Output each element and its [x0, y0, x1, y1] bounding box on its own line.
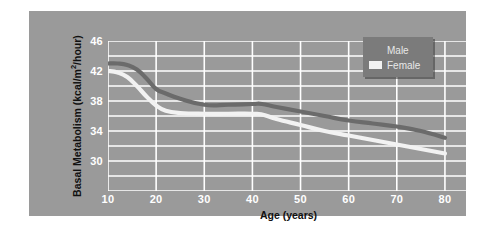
legend-item-female: Female: [369, 58, 420, 72]
y-axis-tick-label: 30: [77, 155, 103, 167]
y-axis-tick-label: 46: [77, 35, 103, 47]
x-axis-tick-label: 50: [286, 193, 316, 205]
x-axis-tick-label: 30: [189, 193, 219, 205]
x-axis-tick-label: 70: [382, 193, 412, 205]
chart-legend: Male Female: [363, 37, 433, 77]
x-axis-tick-labels: 1020304050607080: [108, 193, 469, 209]
legend-label-male: Male: [387, 45, 409, 56]
x-axis-tick-label: 60: [334, 193, 364, 205]
legend-item-male: Male: [369, 43, 409, 57]
series-line-female: [108, 71, 445, 154]
x-axis-tick-label: 80: [430, 193, 460, 205]
chart-panel: Basal Metabolism (kcal/m2/hour) 46423834…: [29, 11, 466, 216]
legend-label-female: Female: [387, 60, 420, 71]
y-axis-tick-label: 38: [77, 95, 103, 107]
x-axis-tick-label: 20: [141, 193, 171, 205]
x-axis-tick-label: 40: [237, 193, 267, 205]
chart-figure: Basal Metabolism (kcal/m2/hour) 46423834…: [0, 0, 495, 239]
legend-swatch-male-icon: [369, 46, 382, 54]
y-axis-tick-label: 34: [77, 125, 103, 137]
y-axis-tick-label: 42: [77, 65, 103, 77]
y-axis-tick-labels: 4642383430: [77, 41, 103, 191]
x-axis-label: Age (years): [108, 209, 469, 221]
legend-swatch-female-icon: [369, 61, 382, 69]
x-axis-tick-label: 10: [93, 193, 123, 205]
